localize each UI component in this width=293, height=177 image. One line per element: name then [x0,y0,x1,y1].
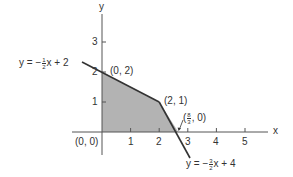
point-label-2-1: (2, 1) [164,96,187,106]
fraction-1-2: 12 [42,57,45,70]
x-tick-label-2: 2 [156,137,162,147]
fraction-3-2: 32 [209,158,212,171]
graph-canvas [0,0,293,177]
arrow-head-icon [178,128,181,132]
equation-label-line-1: y = −12x + 2 [19,57,69,70]
fraction-8-3: 83 [187,112,190,125]
point-label-8-3-0: (83, 0) [183,112,206,125]
x-tick-label-1: 1 [128,137,134,147]
linear-programming-figure: y x 3 2 1 1 2 3 4 5 (0, 0) (0, 2) (2, 1)… [0,0,293,177]
y-axis-label: y [99,2,104,12]
x-tick-label-5: 5 [242,137,248,147]
equation-label-line-2: y = −32x + 4 [186,158,236,171]
x-tick-label-4: 4 [213,137,219,147]
point-label-origin: (0, 0) [75,137,98,147]
y-tick-label-3: 3 [92,37,98,47]
y-tick-label-1: 1 [92,97,98,107]
x-axis-label: x [273,126,278,136]
x-tick-label-3: 3 [185,137,191,147]
point-label-0-2: (0, 2) [110,66,133,76]
y-tick-label-2: 2 [92,67,98,77]
